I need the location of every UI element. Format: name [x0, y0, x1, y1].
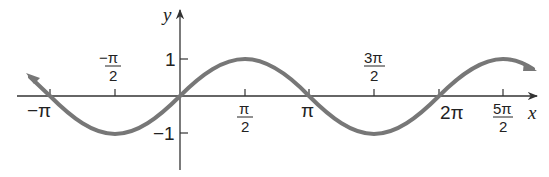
- y-axis-label: y: [161, 4, 172, 25]
- x-tick-label-two-pi: 2π: [440, 102, 464, 123]
- svg-text:2: 2: [241, 118, 249, 135]
- svg-text:π: π: [239, 100, 249, 117]
- x-ticks: [50, 89, 503, 96]
- sine-graph: y x 1 −1 −π −π 2 π 2 π 3π 2 2π 5π 2: [0, 0, 549, 177]
- svg-text:−π: −π: [99, 49, 118, 66]
- x-tick-label-pi: π: [301, 100, 314, 121]
- svg-text:5π: 5π: [493, 100, 512, 117]
- x-tick-label-five-pi-half: 5π 2: [493, 100, 513, 135]
- svg-text:2: 2: [370, 67, 378, 84]
- x-tick-label-three-pi-half: 3π 2: [364, 49, 385, 84]
- svg-text:3π: 3π: [364, 49, 383, 66]
- x-tick-label-neg-pi-half: −π 2: [99, 49, 121, 84]
- svg-text:2: 2: [109, 67, 117, 84]
- y-tick-label-neg1: −1: [153, 123, 175, 144]
- svg-text:2: 2: [499, 118, 507, 135]
- y-tick-label-1: 1: [165, 49, 176, 70]
- curve-arrow-right: [523, 62, 537, 71]
- x-tick-label-pi-half: π 2: [237, 100, 253, 135]
- x-tick-label-neg-pi: −π: [27, 100, 51, 121]
- x-axis-label: x: [527, 102, 537, 123]
